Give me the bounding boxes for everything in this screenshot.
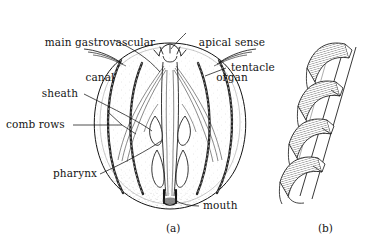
panel-label-a: (a) (166, 222, 180, 234)
label-sheath: sheath (0, 88, 78, 100)
figure-root: main gastrovascular canal apical sense o… (0, 0, 385, 247)
label-gastrovascular-canal-line1: main gastrovascular (24, 37, 176, 49)
comb-plate-4 (279, 157, 325, 204)
panel-b-comb-plate-detail (279, 43, 356, 204)
panel-label-b: (b) (318, 222, 333, 234)
label-apical-sense-organ-line1: apical sense (186, 37, 278, 49)
label-gastrovascular-canal-line2: canal (24, 72, 176, 84)
label-pharynx: pharynx (53, 168, 97, 180)
label-comb-rows: comb rows (6, 119, 65, 131)
label-tentacle: tentacle (231, 62, 275, 74)
label-apical-sense-organ: apical sense organ (186, 14, 278, 106)
label-mouth: mouth (203, 200, 238, 212)
